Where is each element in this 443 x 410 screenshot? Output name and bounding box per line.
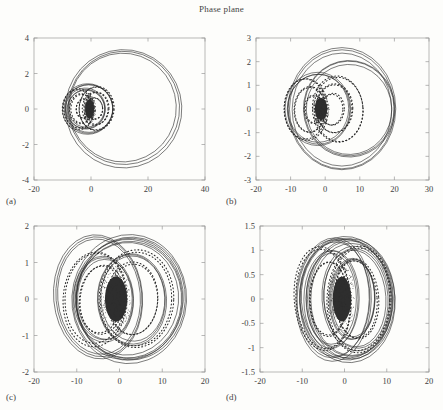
y-tick-label: 0 xyxy=(25,294,29,304)
x-tick-label: 20 xyxy=(425,376,434,386)
orbit-outer-cycle xyxy=(67,51,179,165)
trajectories-c xyxy=(48,231,189,366)
y-tick-label: 2 xyxy=(247,57,251,67)
panel-label-d: (d) xyxy=(226,392,237,402)
y-tick-label: -1 xyxy=(248,343,255,353)
orbit-outer-cycle-1 xyxy=(289,50,394,169)
x-tick-label: 40 xyxy=(201,184,210,194)
orbit-outer-cycle-1 xyxy=(69,232,190,367)
y-tick-label: -1.5 xyxy=(242,367,255,377)
x-tick-label: 0 xyxy=(117,376,121,386)
y-tick-label: 2 xyxy=(25,221,29,231)
y-tick-label: 1 xyxy=(251,245,255,255)
x-tick-label: 20 xyxy=(390,184,399,194)
y-tick-label: 0.5 xyxy=(244,270,255,280)
y-tick-label: -2 xyxy=(244,151,251,161)
y-tick-label: 0 xyxy=(25,104,29,114)
plot-area-d: -20-1001020-1.5-1-0.500.511.5 xyxy=(224,216,443,406)
y-tick-label: 4 xyxy=(25,33,30,43)
plot-area-b: -20-100102030-3-2-10123 xyxy=(224,28,443,210)
orbit-outer-cycle-1 xyxy=(292,53,392,166)
subplot-c: -20-1001020-2-1012(c) xyxy=(4,216,219,406)
x-tick-label: -20 xyxy=(28,184,39,194)
y-tick-label: 3 xyxy=(247,33,251,43)
trajectories-d xyxy=(291,233,400,366)
figure-title: Phase plane xyxy=(0,4,443,14)
plot-area-a: -2002040-4-2024 xyxy=(4,28,219,210)
x-tick-label: -20 xyxy=(28,376,39,386)
y-tick-label: -4 xyxy=(22,175,30,185)
y-tick-label: -2 xyxy=(22,367,29,377)
y-tick-label: 0 xyxy=(251,294,255,304)
trajectories-b xyxy=(284,48,397,170)
y-tick-label: -1 xyxy=(22,331,29,341)
plot-area-c: -20-1001020-2-1012 xyxy=(4,216,219,406)
trajectories-a xyxy=(61,47,185,171)
y-tick-label: 0 xyxy=(247,104,251,114)
x-tick-label: 0 xyxy=(89,184,93,194)
y-tick-label: 2 xyxy=(25,69,29,79)
x-tick-label: -10 xyxy=(297,376,308,386)
subplot-d: -20-1001020-1.5-1-0.500.511.5(d) xyxy=(224,216,443,406)
x-tick-label: 0 xyxy=(323,184,327,194)
x-tick-label: 10 xyxy=(158,376,167,386)
x-tick-label: -20 xyxy=(254,376,265,386)
subplot-b: -20-100102030-3-2-10123(b) xyxy=(224,28,443,210)
x-tick-label: 10 xyxy=(383,376,392,386)
x-tick-label: 20 xyxy=(201,376,210,386)
y-tick-label: -1 xyxy=(244,128,251,138)
y-tick-label: 1.5 xyxy=(244,221,255,231)
subplot-a: -2002040-4-2024(a) xyxy=(4,28,219,210)
orbit-outer-cycle xyxy=(63,47,185,171)
x-tick-label: 0 xyxy=(342,376,346,386)
panel-label-a: (a) xyxy=(6,196,16,206)
x-tick-label: -10 xyxy=(285,184,296,194)
x-tick-label: -20 xyxy=(250,184,261,194)
panel-label-b: (b) xyxy=(226,196,237,206)
x-tick-label: -10 xyxy=(71,376,82,386)
x-tick-label: 30 xyxy=(425,184,434,194)
y-tick-label: -0.5 xyxy=(242,318,255,328)
x-tick-label: 20 xyxy=(144,184,153,194)
y-tick-label: -3 xyxy=(244,175,251,185)
phase-plane-figure: Phase plane -2002040-4-2024(a) -20-10010… xyxy=(0,0,443,410)
y-tick-label: 1 xyxy=(247,80,251,90)
panel-label-c: (c) xyxy=(6,392,16,402)
y-tick-label: -2 xyxy=(22,140,29,150)
x-tick-label: 10 xyxy=(356,184,365,194)
y-tick-label: 1 xyxy=(25,258,29,268)
